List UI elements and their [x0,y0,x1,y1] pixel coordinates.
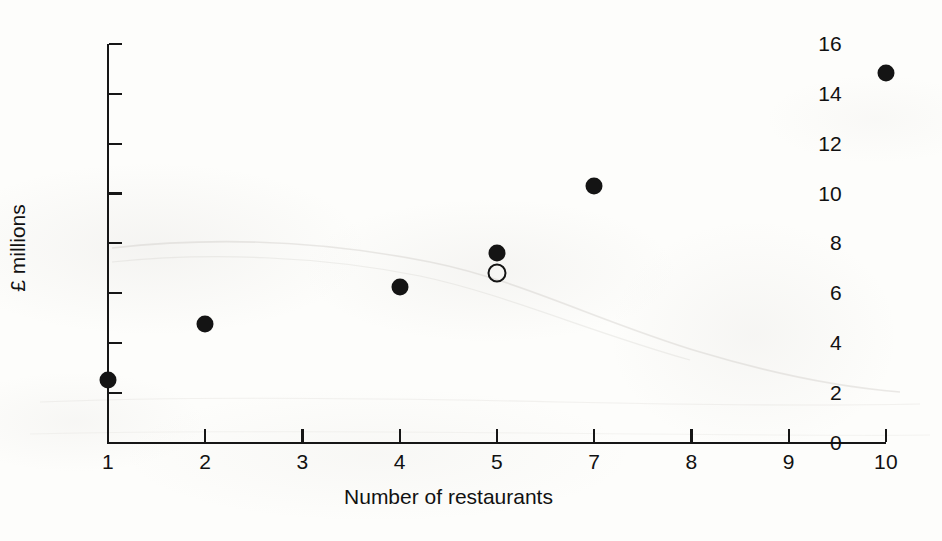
x-tick-label: 3 [297,450,309,474]
y-tick [109,143,122,145]
x-tick [496,429,498,442]
chart-figure: 0246810121416 1234578910 £ millions Numb… [0,0,942,541]
x-tick-label: 2 [199,450,211,474]
x-tick [690,429,692,442]
y-tick-label: 10 [818,182,842,206]
x-tick-label: 4 [394,450,406,474]
y-tick [109,93,122,95]
data-point-open [488,264,507,283]
y-tick [109,392,122,394]
y-tick [109,342,122,344]
y-tick-label: 6 [830,281,842,305]
y-tick [109,292,122,294]
x-tick [593,429,595,442]
x-tick-label: 1 [102,450,114,474]
y-tick-label: 2 [830,381,842,405]
x-tick-label: 8 [686,450,698,474]
x-tick [885,429,887,442]
y-tick-label: 14 [818,82,842,106]
y-tick-label: 0 [830,431,842,455]
y-tick-label: 12 [818,132,842,156]
data-point-filled [100,372,117,389]
x-tick-label: 7 [588,450,600,474]
x-tick [399,429,401,442]
x-tick [301,429,303,442]
data-point-filled [391,279,408,296]
x-axis-title: Number of restaurants [0,485,942,509]
data-point-filled [878,64,895,81]
x-axis-title-text: Number of restaurants [344,485,553,509]
x-tick-label: 9 [783,450,795,474]
x-tick [204,429,206,442]
y-axis-title: £ millions [6,204,30,292]
x-tick-label: 10 [874,450,898,474]
data-point-filled [197,316,214,333]
y-tick-label: 4 [830,331,842,355]
x-tick [788,429,790,442]
data-point-filled [489,245,506,262]
y-tick-label: 16 [818,32,842,56]
x-tick-label: 5 [491,450,503,474]
y-tick [109,43,122,45]
plot-area: 0246810121416 1234578910 £ millions Numb… [0,0,942,541]
y-tick [109,442,122,444]
y-tick-label: 8 [830,231,842,255]
data-point-filled [586,178,603,195]
y-tick [109,192,122,194]
y-tick [109,242,122,244]
